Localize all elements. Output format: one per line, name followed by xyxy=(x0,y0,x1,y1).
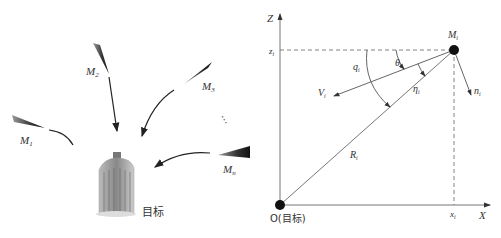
missile-icon xyxy=(218,146,250,158)
target-building xyxy=(96,152,136,217)
origin-point xyxy=(275,200,285,210)
missile-m1: M1 xyxy=(12,115,73,148)
ellipsis: ⋯ xyxy=(217,113,232,127)
r-label: Ri xyxy=(349,149,358,161)
velocity-vector xyxy=(334,50,454,96)
trajectory-arrow xyxy=(109,77,117,131)
v-label: Vi xyxy=(318,87,326,99)
missile-m2: M2 xyxy=(85,43,117,131)
q-label: qi xyxy=(353,61,360,73)
origin-label: O(目标) xyxy=(270,213,306,224)
trajectory-line xyxy=(49,130,73,145)
diagram-canvas: M1 M2 M3 ⋯ Mn 目标 Z X zi xi R xyxy=(0,0,501,238)
missile-label-m2: M2 xyxy=(85,65,99,79)
missile-icon xyxy=(12,115,45,128)
coordinate-system: Z X zi xi Ri Vi ni qi θi ηi Mi O(目标) xyxy=(267,12,490,224)
missile-label-mn: Mn xyxy=(222,163,236,177)
normal-vector xyxy=(454,50,471,95)
missile-label-m1: M1 xyxy=(19,134,33,148)
eta-angle-arc xyxy=(418,64,425,76)
missile-m3: M3 xyxy=(142,62,215,136)
xi-label: xi xyxy=(449,209,456,220)
missile-mn: Mn xyxy=(155,146,250,177)
q-angle-arc xyxy=(366,50,390,107)
z-axis-label: Z xyxy=(267,12,274,24)
zi-label: zi xyxy=(268,46,275,57)
range-line-r xyxy=(280,50,454,205)
missile-point xyxy=(449,45,459,55)
n-label: ni xyxy=(474,85,481,97)
mi-label: Mi xyxy=(447,29,458,41)
missile-icon xyxy=(93,43,109,74)
missile-label-m3: M3 xyxy=(201,80,215,94)
trajectory-arrow xyxy=(155,153,210,167)
eta-label: ηi xyxy=(413,83,420,95)
target-label: 目标 xyxy=(142,205,164,219)
x-axis-label: X xyxy=(478,209,487,221)
theta-label: θi xyxy=(395,57,402,69)
trajectory-arrow xyxy=(142,90,174,136)
